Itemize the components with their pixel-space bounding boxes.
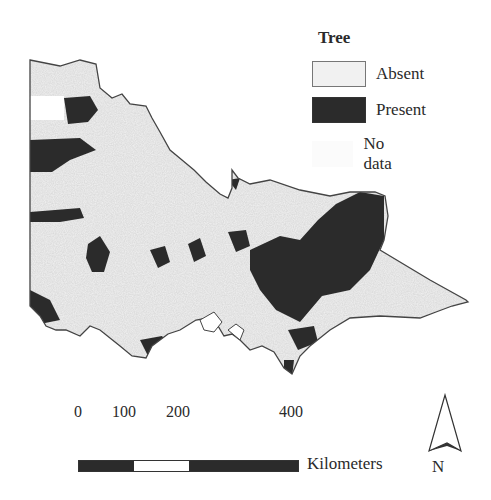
legend-item-absent: Absent (312, 61, 424, 87)
scale-tick-100: 100 (112, 403, 136, 421)
scale-units: Kilometers (307, 454, 383, 474)
scale-segment (189, 461, 298, 471)
legend-item-present: Present (312, 97, 426, 123)
legend: Tree Absent Present No data (312, 28, 350, 48)
legend-title: Tree (318, 28, 350, 48)
north-arrow-icon (425, 393, 465, 455)
north-label: N (432, 457, 444, 477)
absent-swatch (312, 61, 366, 87)
legend-label: Present (376, 100, 426, 120)
legend-label: Absent (376, 64, 424, 84)
scale-segment (79, 461, 134, 471)
present-swatch (312, 97, 366, 123)
legend-label: No data (363, 134, 404, 174)
scale-tick-0: 0 (74, 403, 82, 421)
scale-tick-400: 400 (279, 403, 303, 421)
no-data-swatch (312, 141, 353, 167)
scale-segment (134, 461, 189, 471)
legend-item-no-data: No data (312, 134, 404, 174)
scale-bar (78, 460, 299, 472)
scale-tick-200: 200 (166, 403, 190, 421)
